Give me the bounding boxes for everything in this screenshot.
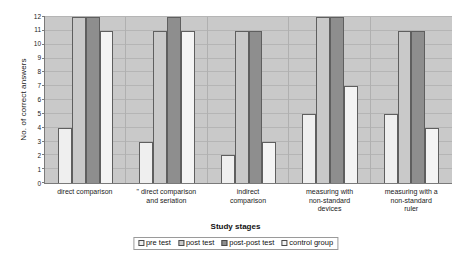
x-axis-title: Study stages [0,222,471,231]
chart-figure: No. of correct answers 0123456789101112 … [0,0,471,257]
legend-item[interactable]: post test [178,239,214,247]
bar [411,31,425,183]
x-tick-label-line: measuring with [290,188,370,197]
bar-group [371,17,452,183]
y-tick-label: 12 [34,14,41,21]
legend-swatch [178,240,184,246]
legend-item[interactable]: control group [281,239,333,247]
bar [384,114,398,183]
x-tick-label-line: comparison [208,197,288,206]
bar [330,17,344,183]
x-tick-label-line: non-standard [290,197,370,206]
bar [302,114,316,183]
y-tick-label: 2 [37,153,41,160]
bar-slot [384,17,398,183]
x-axis-tick-labels: direct comparison" direct comparisonand … [44,188,452,214]
y-tick-label: 9 [37,56,41,63]
y-tick-label: 11 [34,28,41,35]
x-tick-label: measuring withnon-standarddevices [289,188,371,214]
bar-slot [86,17,100,183]
y-tick-label: 7 [37,83,41,90]
bar-slot [316,17,330,183]
bar [235,31,249,183]
bar-slot [411,17,425,183]
bar-slot [302,17,316,183]
y-axis-tick-labels: 0123456789101112 [25,17,41,184]
bar-slot [58,17,72,183]
x-tick-label-line: direct comparison [45,188,125,197]
y-tick-label: 6 [37,97,41,104]
y-tick-label: 8 [37,69,41,76]
x-tick-label-line: non-standard [371,197,451,206]
bar [262,142,276,184]
x-tick-label: direct comparison [44,188,126,214]
x-tick-label-line: " direct comparison [127,188,207,197]
plot-area [44,17,452,184]
y-tick-label: 5 [37,111,41,118]
bar [86,17,100,183]
bar [167,17,181,183]
bar-slot [249,17,263,183]
x-tick-label-line: and seriation [127,197,207,206]
bar-slot [72,17,86,183]
bar-slot [262,17,276,183]
bar-group [126,17,207,183]
bar [139,142,153,184]
legend-label: pre test [146,239,171,247]
x-tick-label-line: ruler [371,205,451,214]
plot-area-wrapper: 0123456789101112 [44,17,452,184]
y-tick-label: 3 [37,139,41,146]
bar [181,31,195,183]
bar [221,155,235,183]
legend-item[interactable]: post-post test [221,239,274,247]
bar-slot [330,17,344,183]
bar [398,31,412,183]
bar-slot [425,17,439,183]
bar-groups [45,17,452,183]
bar-group [208,17,289,183]
legend-swatch [221,240,227,246]
bar-slot [398,17,412,183]
bar-slot [181,17,195,183]
legend: pre testpost testpost-post testcontrol g… [133,237,338,250]
legend-label: post test [186,239,214,247]
bar-slot [344,17,358,183]
bar [425,128,439,183]
x-tick-label: " direct comparisonand seriation [126,188,208,214]
x-tick-label: measuring with anon-standardruler [370,188,452,214]
x-tick-label-line: devices [290,205,370,214]
x-tick-label-line: indirect [208,188,288,197]
bar-slot [235,17,249,183]
bar [344,86,358,183]
x-tick-label: indirectcomparison [207,188,289,214]
bar [316,17,330,183]
bar-slot [100,17,114,183]
legend-swatch [281,240,287,246]
y-tick-label: 10 [34,42,41,49]
bar-group [289,17,370,183]
y-tick-label: 4 [37,125,41,132]
bar-slot [139,17,153,183]
legend-swatch [138,240,144,246]
legend-item[interactable]: pre test [138,239,171,247]
bar [72,17,86,183]
y-tick-label: 1 [37,167,41,174]
bar-slot [221,17,235,183]
bar-group [45,17,126,183]
bar-slot [153,17,167,183]
y-tick-label: 0 [37,181,41,188]
bar [249,31,263,183]
bar-slot [167,17,181,183]
bar [100,31,114,183]
legend-label: control group [289,239,333,247]
x-tick-label-line: measuring with a [371,188,451,197]
bar [153,31,167,183]
bar [58,128,72,183]
legend-label: post-post test [229,239,274,247]
